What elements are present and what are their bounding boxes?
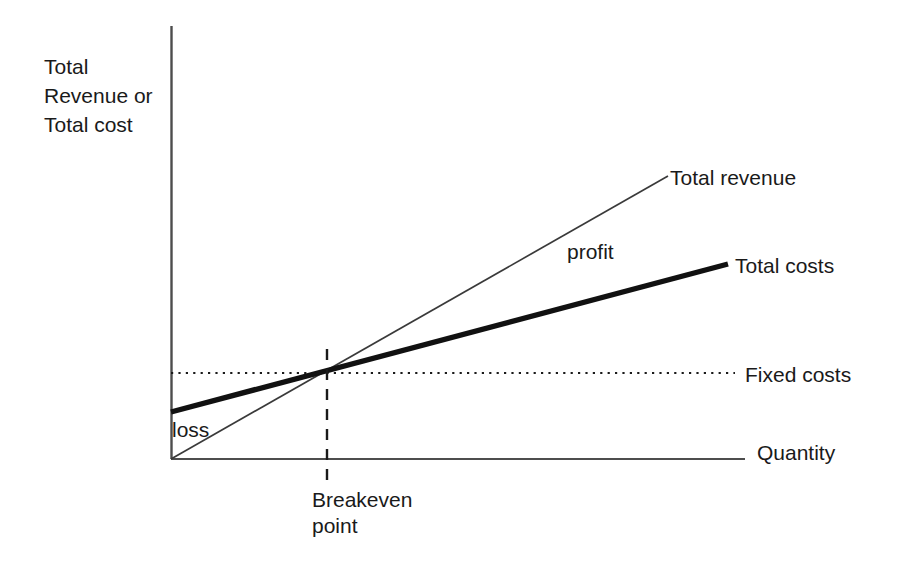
total-revenue-line — [171, 176, 668, 459]
series-label-total-costs: Total costs — [735, 253, 834, 278]
total-costs-line — [171, 264, 728, 412]
y-axis-title-line3: Total cost — [44, 113, 133, 136]
annotation-breakeven-point: Breakevenpoint — [312, 487, 412, 539]
y-axis-title-line2: Revenue or — [44, 84, 153, 107]
x-axis-title: Quantity — [757, 440, 835, 465]
breakeven-label-line1: Breakeven — [312, 488, 412, 511]
y-axis-title-line1: Total — [44, 55, 88, 78]
y-axis-title: TotalRevenue orTotal cost — [44, 52, 153, 139]
annotation-loss: loss — [172, 417, 209, 442]
breakeven-chart: TotalRevenue orTotal cost Total revenue … — [0, 0, 903, 571]
series-label-total-revenue: Total revenue — [670, 165, 796, 190]
breakeven-label-line2: point — [312, 514, 358, 537]
annotation-profit: profit — [567, 239, 614, 264]
series-label-fixed-costs: Fixed costs — [745, 362, 851, 387]
